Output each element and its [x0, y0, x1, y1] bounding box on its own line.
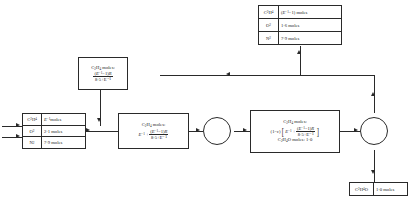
mixer-denominator: 8·5+E⁻¹ [149, 135, 168, 140]
process-flow-diagram: C2H4 E−1 moles O2 2·1 moles N2 7·9 moles… [0, 0, 411, 209]
splitter-to-product-arrow [371, 170, 375, 174]
mixer-box-expression: E−1 + (E−1−1)R 8·5+E⁻¹ [139, 129, 169, 140]
feed-inlet-arrow-lower [16, 134, 20, 138]
circle-to-reactor-arrow [243, 128, 247, 132]
reactor-denominator: 8·5+E⁻¹ [296, 132, 315, 137]
mixer-lead-term: E−1 + [139, 132, 149, 137]
reactor-to-splitter-arrow [354, 128, 358, 132]
circle-to-reactor-line [234, 131, 250, 132]
reactor-lead-term: E−1 + [285, 129, 295, 134]
purge-species-n2: N2 [259, 32, 279, 44]
mixer-stream-box: C2H4 moles: E−1 + (E−1−1)R 8·5+E⁻¹ [118, 113, 189, 149]
product-value-c2h4o: 1·0 moles [374, 183, 407, 195]
feed-to-junction-arrow [86, 128, 90, 132]
table-row: N2 7·9 moles [23, 137, 85, 148]
recycle-riser-arrow [371, 92, 375, 96]
purge-value-o2: 1·6 moles [279, 19, 341, 31]
feed-inlet-arrow-upper [16, 123, 20, 127]
feed-value-o2: 2·1 moles [42, 126, 85, 137]
feed-species-n2: N2 [23, 137, 42, 148]
feed-value-n2: 7·9 moles [42, 137, 85, 148]
recycle-box-fraction: (E−1−1)R 8·5+E⁻¹ [93, 71, 112, 82]
mixer-fraction: (E−1−1)R 8·5+E⁻¹ [149, 129, 168, 140]
reactor-product-line: C2H4O moles: 1·0 [278, 137, 313, 143]
reactor-to-splitter-line [340, 131, 362, 132]
purge-species-o2: O2 [259, 19, 279, 31]
purge-species-c2h4: C2H4 [259, 6, 279, 18]
purge-riser-arrow [297, 50, 301, 54]
reactor-conversion-factor: (1−ε) [271, 129, 281, 134]
reactor-fraction: (E−1−1)R 8·5+E⁻¹ [296, 126, 315, 137]
table-row: O2 2·1 moles [23, 126, 85, 138]
purge-value-c2h4: (E−1−1) moles [279, 6, 341, 18]
feed-stream-table: C2H4 E−1 moles O2 2·1 moles N2 7·9 moles [22, 113, 86, 149]
feed-value-c2h4: E−1 moles [42, 114, 85, 125]
table-row: N2 7·9 moles [259, 32, 341, 44]
table-row: O2 1·6 moles [259, 19, 341, 32]
feed-inlet-line-lower [2, 137, 24, 138]
splitter-junction-circle [360, 117, 388, 145]
splitter-to-product-line [374, 150, 375, 182]
recycle-stream-box: C2H4 moles: (E−1−1)R 8·5+E⁻¹ [78, 57, 128, 90]
feed-species-c2h4: C2H4 [23, 114, 42, 125]
reactor-outlet-box: C2H4 moles: (1−ε) [ E−1 + (E−1−1)R 8·5+E… [250, 110, 340, 153]
recycle-denominator: 8·5+E⁻¹ [93, 77, 112, 82]
mixing-junction-circle [203, 117, 231, 145]
product-stream-table: C2H4O 1·0 moles [349, 182, 408, 196]
mixerbox-to-circle-arrow [196, 128, 200, 132]
purge-value-n2: 7·9 moles [279, 32, 341, 44]
feed-species-o2: O2 [23, 126, 42, 137]
purge-stream-table: C2H4 (E−1−1) moles O2 1·6 moles N2 7·9 m… [258, 5, 342, 45]
table-row: C2H4 (E−1−1) moles [259, 6, 341, 19]
feed-inlet-line-upper [2, 126, 24, 127]
recycle-down-arrow [97, 118, 101, 122]
table-row: C2H4 E−1 moles [23, 114, 85, 126]
reactor-box-expression: (1−ε) [ E−1 + (E−1−1)R 8·5+E⁻¹ ] [271, 126, 320, 137]
recycle-horizontal-arrow [226, 72, 230, 76]
product-species-c2h4o: C2H4O [350, 183, 374, 195]
feed-to-junction-line [86, 131, 118, 132]
recycle-horizontal-line [160, 75, 375, 76]
table-row: C2H4O 1·0 moles [350, 183, 407, 195]
